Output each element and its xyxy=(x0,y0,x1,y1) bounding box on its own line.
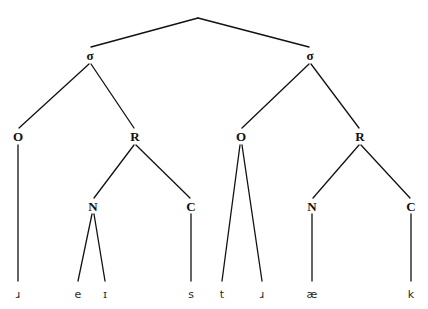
tree-edges-layer xyxy=(0,0,428,309)
segment-seg-r1: ɹ xyxy=(16,289,21,300)
edge-root-sigma1 xyxy=(91,18,198,47)
syllable-tree-diagram: σσORORNCNC ɹeɪstɹæk xyxy=(0,0,428,309)
segment-seg-t: t xyxy=(220,289,224,300)
node-sigma1: σ xyxy=(86,49,93,62)
edge-rhyme1-coda1 xyxy=(136,145,190,198)
edge-rhyme2-coda2 xyxy=(361,145,410,198)
segment-seg-ae: æ xyxy=(307,289,318,300)
segment-seg-r2: ɹ xyxy=(260,289,265,300)
edge-nucleus1-seg-i xyxy=(94,214,105,281)
edge-onset2-seg-r2 xyxy=(242,145,262,281)
edge-nucleus1-seg-e xyxy=(78,214,92,281)
segment-seg-i: ɪ xyxy=(103,289,107,300)
edge-sigma1-rhyme1 xyxy=(91,64,134,128)
node-onset1: O xyxy=(13,130,23,143)
edge-rhyme2-nucleus2 xyxy=(313,145,359,198)
node-onset2: O xyxy=(236,130,246,143)
segment-seg-e: e xyxy=(75,289,82,300)
edge-root-sigma2 xyxy=(198,18,309,47)
node-sigma2: σ xyxy=(306,49,313,62)
edge-sigma2-rhyme2 xyxy=(311,64,359,128)
segment-seg-k: k xyxy=(408,289,414,300)
node-coda2: C xyxy=(406,200,415,213)
node-nucleus1: N xyxy=(88,200,97,213)
node-coda1: C xyxy=(186,200,195,213)
edge-sigma1-onset1 xyxy=(19,64,89,128)
edge-group xyxy=(18,18,411,281)
node-rhyme1: R xyxy=(130,130,139,143)
node-nucleus2: N xyxy=(307,200,316,213)
segment-seg-s: s xyxy=(188,289,194,300)
edge-onset2-seg-t xyxy=(222,145,240,281)
edge-sigma2-onset2 xyxy=(242,64,309,128)
node-rhyme2: R xyxy=(355,130,364,143)
edge-rhyme1-nucleus1 xyxy=(94,145,134,198)
